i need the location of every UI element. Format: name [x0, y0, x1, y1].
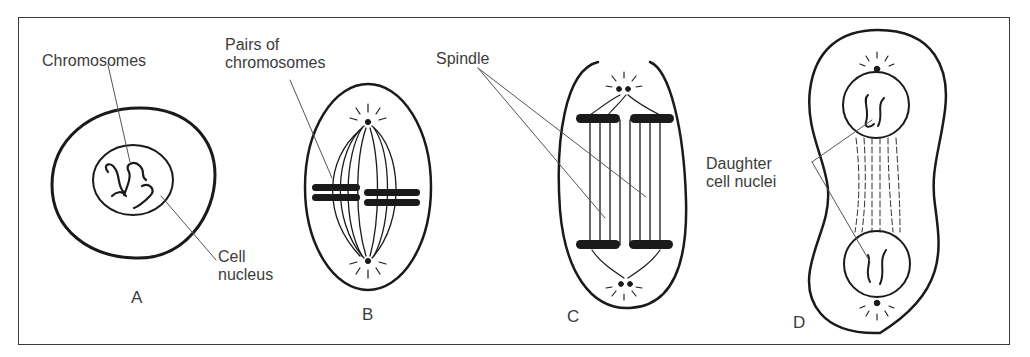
mitosis-diagram	[0, 0, 1030, 357]
stage-c-cell	[478, 62, 686, 308]
stage-letter-c: C	[567, 307, 579, 327]
stage-letter-b: B	[362, 305, 373, 325]
label-cell-nucleus: Cell nucleus	[218, 248, 273, 284]
label-chromosomes: Chromosomes	[42, 52, 146, 70]
stage-letter-d: D	[793, 313, 805, 333]
stage-letter-a: A	[131, 288, 142, 308]
stage-b-cell	[290, 80, 431, 290]
stage-b-chromosomes	[312, 184, 420, 206]
label-pairs-of-chromosomes: Pairs of chromosomes	[225, 36, 325, 72]
stage-d-cell	[809, 30, 946, 333]
label-daughter-cell-nuclei: Daughter cell nuclei	[706, 155, 776, 191]
stage-a-cell	[52, 65, 216, 260]
label-spindle: Spindle	[436, 50, 489, 68]
